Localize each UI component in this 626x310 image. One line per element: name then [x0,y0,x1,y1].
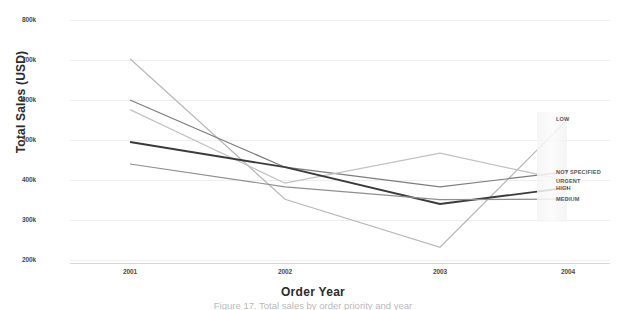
legend-panel [537,112,567,222]
legend-item-not-specified[interactable]: NOT SPECIFIED [556,169,601,175]
series-line [130,110,568,184]
legend-item-medium[interactable]: MEDIUM [556,196,580,202]
y-tick-label: 800k [0,16,36,23]
x-tick-label: 2002 [260,268,310,275]
y-tick-label: 500k [0,136,36,143]
line-chart: Total Sales (USD) 800k700k600k500k400k30… [0,0,626,310]
y-tick-label: 400k [0,176,36,183]
x-tick-label: 2004 [543,268,593,275]
series-lines [70,16,610,264]
y-tick-label: 600k [0,96,36,103]
y-tick-label: 300k [0,216,36,223]
series-line [130,142,568,204]
legend-item-low[interactable]: LOW [556,116,570,122]
x-tick-label: 2003 [415,268,465,275]
figure-caption: Figure 17. Total sales by order priority… [0,300,626,310]
y-tick-label: 700k [0,56,36,63]
x-axis-title: Order Year [0,285,626,299]
legend-item-urgent[interactable]: URGENT [556,178,581,184]
plot-area: 800k700k600k500k400k300k200k 20012002200… [70,16,610,264]
x-tick-label: 2001 [105,268,155,275]
y-tick-label: 200k [0,256,36,263]
legend-item-high[interactable]: HIGH [556,185,571,191]
